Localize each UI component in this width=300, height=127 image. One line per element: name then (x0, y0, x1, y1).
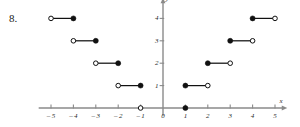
x-tick-label: – 4 (69, 112, 77, 120)
x-tick-label: 3 (228, 112, 232, 120)
step-function-figure: 8. – 5– 4– 3– 2– 10123451234xy (0, 0, 300, 127)
plot-canvas (0, 0, 300, 127)
step-segment (116, 83, 143, 88)
filled-endpoint (228, 38, 233, 43)
step-segment (183, 83, 210, 88)
step-segment (71, 38, 98, 43)
open-endpoint (71, 39, 76, 44)
x-tick-label: – 2 (114, 112, 122, 120)
filled-endpoint (183, 83, 188, 88)
x-axis-arrow (282, 106, 288, 111)
open-endpoint (49, 16, 54, 21)
x-tick-label: 4 (251, 112, 255, 120)
step-segment (228, 38, 255, 43)
x-tick-label: – 5 (47, 112, 55, 120)
x-tick-label: – 1 (136, 112, 144, 120)
open-endpoint (273, 16, 278, 21)
open-endpoint (94, 61, 99, 66)
filled-endpoint (250, 16, 255, 21)
open-endpoint (116, 83, 121, 88)
filled-endpoint (183, 106, 188, 111)
filled-endpoint (116, 61, 121, 66)
open-endpoint (228, 61, 233, 66)
step-segment (205, 61, 232, 66)
y-tick-label: 4 (155, 14, 159, 22)
open-endpoint (138, 106, 143, 111)
y-axis-name: y (166, 0, 169, 3)
y-tick-label: 3 (155, 37, 159, 45)
filled-endpoint (205, 61, 210, 66)
x-tick-label: – 3 (92, 112, 100, 120)
x-tick-label: 1 (184, 112, 188, 120)
y-tick-label: 2 (155, 59, 159, 67)
step-segment (94, 61, 121, 66)
filled-endpoint (138, 83, 143, 88)
x-tick-label: 5 (273, 112, 277, 120)
filled-endpoint (93, 38, 98, 43)
x-tick-label: 2 (206, 112, 210, 120)
x-axis-name: x (279, 97, 282, 105)
filled-endpoint (71, 16, 76, 21)
open-endpoint (250, 39, 255, 44)
step-segment (250, 16, 277, 21)
step-segment (49, 16, 76, 21)
y-tick-label: 1 (155, 82, 159, 90)
x-tick-label: 0 (161, 112, 165, 120)
open-endpoint (206, 83, 211, 88)
